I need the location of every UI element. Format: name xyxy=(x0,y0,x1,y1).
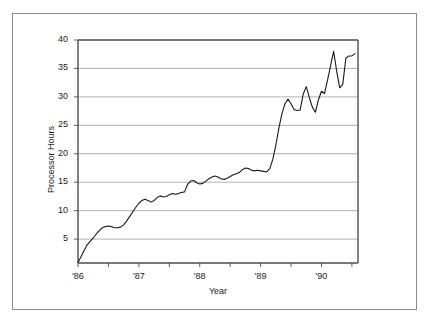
gridlines-group xyxy=(78,40,358,239)
y-tick-label: 40 xyxy=(46,34,68,44)
y-tick-label: 5 xyxy=(46,233,68,243)
figure-container: 510152025303540 '86'87'88'89'90 Processo… xyxy=(0,0,431,327)
x-tick-label: '89 xyxy=(246,271,276,281)
y-tick-label: 35 xyxy=(46,62,68,72)
y-tick-label: 30 xyxy=(46,91,68,101)
x-tick-label: '87 xyxy=(124,271,154,281)
x-tick-label: '88 xyxy=(185,271,215,281)
y-axis-title: Processor Hours xyxy=(46,126,56,193)
y-tick-label: 10 xyxy=(46,205,68,215)
x-tick-label: '90 xyxy=(306,271,336,281)
x-tick-label: '86 xyxy=(63,271,93,281)
series-line-processor-hours xyxy=(78,51,355,262)
chart-plot-area: 510152025303540 '86'87'88'89'90 Processo… xyxy=(0,0,431,327)
axis-lines-group xyxy=(78,40,358,263)
x-axis-title: Year xyxy=(78,286,358,296)
data-series-group xyxy=(78,51,355,262)
